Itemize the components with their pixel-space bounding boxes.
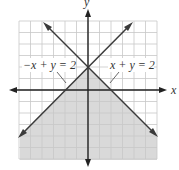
label-x-plus-y-eq-2: x + y = 2 [109,58,155,72]
x-axis-arrow-right-icon [159,87,167,93]
y-axis-arrow-down-icon [85,159,91,167]
y-axis-arrow-up-icon [85,9,91,17]
x-axis-arrow-left-icon [9,87,17,93]
label-neg-x-plus-y-eq-2: −x + y = 2 [23,58,76,72]
y-axis-label: y [83,0,90,9]
graph: x y −x + y = 2 x + y = 2 [0,0,179,170]
x-axis-label: x [170,83,177,97]
